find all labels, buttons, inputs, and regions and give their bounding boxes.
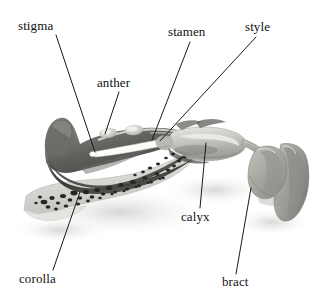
label-style: style [245, 20, 270, 34]
label-bract: bract [222, 275, 248, 289]
flower-specimen-photograph [0, 0, 327, 304]
label-stamen: stamen [168, 25, 205, 39]
label-stigma: stigma [18, 19, 53, 33]
flower-anatomy-figure: stigma anther stamen style calyx corolla… [0, 0, 327, 304]
label-anther: anther [97, 76, 130, 90]
label-corolla: corolla [19, 272, 56, 286]
label-calyx: calyx [181, 210, 210, 224]
